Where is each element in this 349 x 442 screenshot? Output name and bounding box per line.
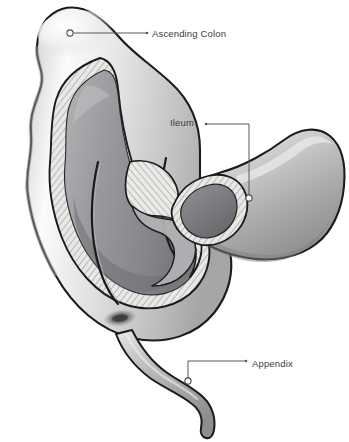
- appendix-tube: [116, 330, 215, 438]
- anchor-marker-appendix: [185, 378, 191, 384]
- anchor-marker-ileum: [246, 195, 252, 201]
- arrow-tip-ascending-colon: [146, 32, 149, 35]
- appendix: [116, 330, 215, 438]
- anatomy-figure: Ascending Colon Ileum Appendix: [0, 0, 349, 442]
- anchor-marker-ascending-colon: [67, 30, 73, 36]
- arrow-tip-appendix: [245, 360, 248, 363]
- label-appendix: Appendix: [252, 358, 293, 369]
- arrow-tip-ileum: [205, 123, 208, 126]
- colon-top-highlight: [38, 10, 118, 62]
- label-ascending-colon: Ascending Colon: [152, 28, 226, 39]
- leader-appendix: [185, 360, 247, 384]
- label-ileum: Ileum: [170, 117, 194, 128]
- anatomy-illustration: [0, 0, 349, 442]
